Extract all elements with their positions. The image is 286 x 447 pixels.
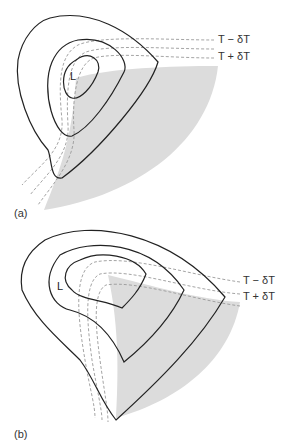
panel-b: L T − δT T + δT — [21, 230, 275, 422]
panel-a: L T − δT T + δT — [17, 16, 250, 210]
isotherm-label-plus-a: T + δT — [218, 50, 250, 62]
low-pressure-label-a: L — [70, 70, 76, 82]
low-pressure-label-b: L — [57, 280, 63, 292]
isotherm-label-plus-b: T + δT — [243, 290, 275, 302]
figure-canvas: L T − δT T + δT L T − δT T + δT — [0, 0, 286, 447]
isotherm-label-minus-a: T − δT — [218, 33, 250, 45]
isotherm-label-minus-b: T − δT — [243, 274, 275, 286]
panel-label-a: (a) — [14, 207, 27, 219]
shaded-region-a — [44, 66, 218, 210]
shaded-region-b — [108, 275, 240, 418]
panel-label-b: (b) — [14, 428, 27, 440]
